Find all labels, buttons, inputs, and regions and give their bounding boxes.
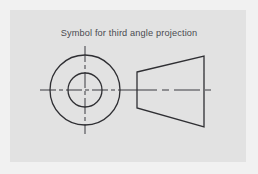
truncated-cone-outline [137, 56, 204, 127]
projection-symbol-drawing: Symbol for third angle projection [0, 0, 258, 174]
figure-root: Symbol for third angle projection [0, 0, 258, 174]
side-view-group [131, 56, 211, 127]
front-view-group [40, 46, 131, 134]
figure-caption: Symbol for third angle projection [61, 28, 198, 38]
